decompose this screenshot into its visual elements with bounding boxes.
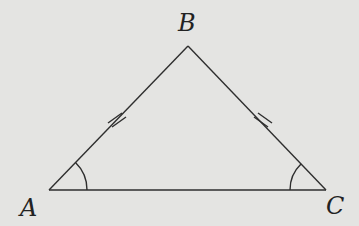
vertex-label-b: B	[177, 9, 196, 37]
side-ab	[49, 46, 188, 190]
side-bc	[188, 46, 326, 190]
angle-arc-a	[76, 163, 88, 191]
isosceles-triangle-diagram: B A C	[0, 0, 359, 226]
vertex-label-c: C	[326, 192, 344, 220]
vertex-label-a: A	[18, 194, 37, 222]
angle-arc-c	[290, 164, 301, 190]
